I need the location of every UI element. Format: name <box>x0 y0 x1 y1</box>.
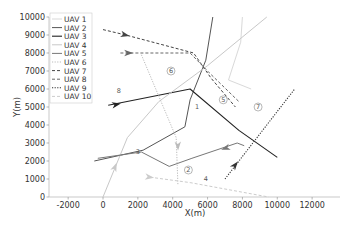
svg-text:2: 2 <box>186 166 190 174</box>
trajectory-uav-3 <box>108 89 277 157</box>
y-tick-label: 1000 <box>25 175 45 184</box>
trajectory-uav-2 <box>94 17 213 161</box>
y-tick-label: 6000 <box>25 85 45 94</box>
svg-text:5: 5 <box>221 96 225 104</box>
y-tick-label: 3000 <box>25 139 45 148</box>
svg-text:7: 7 <box>256 103 260 111</box>
trajectory-uav-4 <box>103 17 267 197</box>
region-label-7: 7 <box>254 103 262 111</box>
direction-arrow-icon <box>120 31 130 39</box>
uav-trajectory-chart: -200002000400060008000100001200001000200… <box>0 0 353 227</box>
x-tick-label: 0 <box>100 201 105 210</box>
x-tick-label: 12000 <box>299 201 324 210</box>
region-label-1: 1 <box>195 103 199 111</box>
y-tick-label: 2000 <box>25 157 45 166</box>
svg-text:4: 4 <box>204 175 208 183</box>
svg-text:3: 3 <box>136 148 140 156</box>
trajectory-uav-5 <box>98 143 244 166</box>
x-tick-label: 4000 <box>163 201 183 210</box>
region-label-3: 3 <box>136 148 140 156</box>
y-tick-label: 10000 <box>20 13 45 22</box>
y-tick-label: 5000 <box>25 103 45 112</box>
chart-svg: -200002000400060008000100001200001000200… <box>0 0 353 227</box>
svg-text:6: 6 <box>169 67 173 75</box>
trajectory-uav-1 <box>229 17 252 89</box>
region-label-5: 5 <box>219 96 227 104</box>
direction-arrow-icon <box>230 159 241 170</box>
y-tick-label: 9000 <box>25 31 45 40</box>
y-tick-label: 7000 <box>25 67 45 76</box>
y-tick-label: 8000 <box>25 49 45 58</box>
x-tick-label: 8000 <box>232 201 252 210</box>
region-label-8: 8 <box>117 87 121 95</box>
direction-arrow-icon <box>110 161 119 172</box>
legend: UAV 1UAV 2UAV 3UAV 4UAV 5UAV 6UAV 7UAV 8… <box>50 13 92 103</box>
direction-arrow-icon <box>175 141 182 150</box>
svg-text:1: 1 <box>195 103 199 111</box>
trajectory-uav-6 <box>141 55 181 185</box>
x-axis-label: X(m) <box>185 208 206 218</box>
y-tick-label: 4000 <box>25 121 45 130</box>
region-label-6: 6 <box>167 67 175 75</box>
legend-label: UAV 10 <box>64 92 91 101</box>
region-label-2: 2 <box>184 166 192 174</box>
region-label-4: 4 <box>204 175 208 183</box>
y-axis-label: Y(m) <box>12 97 22 118</box>
x-tick-label: -2000 <box>57 201 80 210</box>
svg-text:8: 8 <box>117 87 121 95</box>
x-tick-label: 2000 <box>128 201 148 210</box>
trajectory-uav-8 <box>120 50 238 102</box>
y-tick-label: 0 <box>40 193 45 202</box>
x-tick-label: 10000 <box>265 201 290 210</box>
